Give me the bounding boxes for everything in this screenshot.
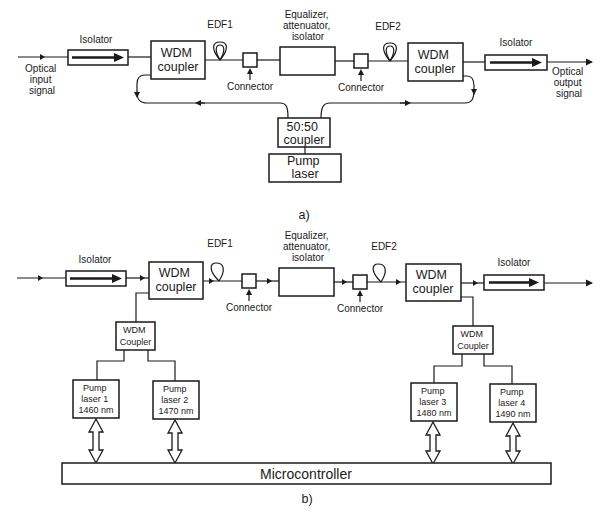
pump-laser-1: Pump laser 1 1460 nm — [73, 380, 119, 418]
output-label: Optical output signal — [552, 66, 586, 99]
svg-text:50:50 coupler: 50:50 coupler — [284, 120, 325, 147]
equalizer-box — [279, 268, 334, 296]
microcontroller-label: Microcontroller — [260, 466, 352, 482]
edf1-coil — [211, 263, 223, 281]
connector-2 — [353, 275, 367, 289]
connector-2-label: Connector — [338, 82, 385, 93]
caption-b: b) — [301, 492, 312, 506]
connector-1 — [243, 53, 257, 67]
connector-2 — [354, 54, 368, 68]
edf2-label: EDF2 — [371, 241, 397, 252]
pump-laser-3: Pump laser 3 1480 nm — [411, 383, 457, 421]
svg-text:Pump laser 4 1: Pump laser 4 1490 nm — [495, 387, 530, 419]
diagram-b: Isolator WDM coupler EDF1 Connector Equa… — [17, 230, 592, 506]
svg-text:Pump laser 2 1: Pump laser 2 1470 nm — [158, 384, 193, 416]
pump-laser-2: Pump laser 2 1470 nm — [153, 381, 199, 419]
connector-2-label: Connector — [337, 303, 384, 314]
svg-text:Pump laser 3 1: Pump laser 3 1480 nm — [416, 386, 451, 418]
bidirectional-arrow-icon — [506, 423, 520, 464]
bidirectional-arrow-icon — [426, 422, 440, 464]
isolator-out-label: Isolator — [498, 257, 531, 268]
isolator-in-label: Isolator — [80, 34, 113, 45]
bidirectional-arrow-icon — [168, 420, 182, 463]
svg-text:Pump laser 1 1: Pump laser 1 1460 nm — [78, 383, 113, 415]
edfa-diagrams: Optical input signal Isolator WDM couple… — [0, 0, 607, 517]
connector-1 — [242, 274, 256, 288]
bidirectional-arrow-icon — [89, 419, 103, 463]
svg-text:WDM coupler: WDM coupler — [413, 268, 454, 296]
equalizer-label: Equalizer, attenuator, isolator — [283, 9, 333, 42]
caption-a: a) — [298, 208, 309, 222]
edf2-label: EDF2 — [375, 21, 401, 32]
svg-text:WDM coupler: WDM coupler — [415, 48, 456, 76]
connector-1-label: Connector — [227, 81, 274, 92]
diagram-a: Optical input signal Isolator WDM couple… — [18, 9, 592, 222]
isolator-in-label: Isolator — [79, 254, 112, 265]
svg-text:Pump laser: Pump laser — [287, 154, 323, 181]
pump-laser-4: Pump laser 4 1490 nm — [490, 384, 536, 422]
isolator-out-label: Isolator — [500, 37, 533, 48]
edf2-coil — [373, 264, 385, 282]
input-label: Optical input signal — [25, 63, 59, 96]
equalizer-box — [280, 47, 335, 75]
svg-text:WDM coupler: WDM coupler — [156, 266, 197, 294]
edf1-label: EDF1 — [207, 19, 233, 30]
svg-text:WDM coupler: WDM coupler — [158, 46, 199, 74]
equalizer-label: Equalizer, attenuator, isolator — [283, 230, 333, 263]
edf1-label: EDF1 — [207, 238, 233, 249]
connector-1-label: Connector — [226, 302, 273, 313]
